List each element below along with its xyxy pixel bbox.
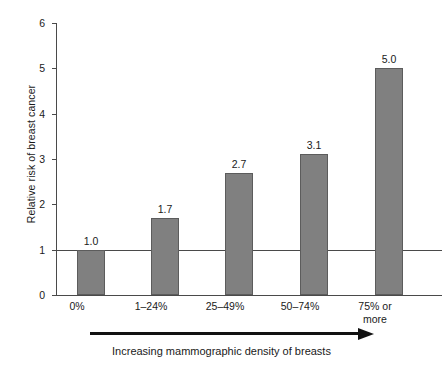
- plot-area: 6 5 4 3 2 1 0 1.0 1.7 2.7 3.1 5: [56, 23, 442, 295]
- y-tick-label-4: 4: [39, 108, 45, 120]
- y-tick-3: 3: [52, 159, 57, 160]
- increasing-density-arrow: [90, 327, 374, 341]
- bar-3: [300, 154, 328, 295]
- x-category-label-4: 75% or more: [340, 300, 410, 325]
- x-category-label-1-line1: 1–24%: [116, 300, 186, 313]
- x-category-label-0: 0%: [42, 300, 112, 313]
- bar-2: [225, 173, 253, 295]
- x-category-label-2: 25–49%: [190, 300, 260, 313]
- y-tick-label-6: 6: [39, 17, 45, 29]
- bar-0: [77, 250, 105, 295]
- chart-figure: Relative risk of breast cancer 6 5 4 3 2…: [0, 0, 443, 365]
- x-axis-line: [56, 295, 442, 296]
- y-tick-2: 2: [52, 204, 57, 205]
- y-tick-label-1: 1: [39, 244, 45, 256]
- x-axis-caption: Increasing mammographic density of breas…: [0, 345, 443, 357]
- x-category-label-4-line2: more: [340, 313, 410, 326]
- y-tick-label-2: 2: [39, 198, 45, 210]
- y-tick-label-5: 5: [39, 62, 45, 74]
- bar-value-3: 3.1: [284, 139, 344, 151]
- x-category-label-2-line1: 25–49%: [190, 300, 260, 313]
- x-category-label-3-line1: 50–74%: [265, 300, 335, 313]
- y-axis-title: Relative risk of breast cancer: [25, 39, 37, 269]
- y-tick-5: 5: [52, 68, 57, 69]
- bar-4: [375, 68, 403, 295]
- bar-value-4: 5.0: [359, 53, 419, 65]
- x-category-label-3: 50–74%: [265, 300, 335, 313]
- y-tick-0: 0: [52, 295, 57, 296]
- y-tick-label-3: 3: [39, 153, 45, 165]
- x-category-label-1: 1–24%: [116, 300, 186, 313]
- y-tick-4: 4: [52, 114, 57, 115]
- y-tick-6: 6: [52, 23, 57, 24]
- bar-value-2: 2.7: [209, 158, 269, 170]
- bar-value-0: 1.0: [61, 235, 121, 247]
- bar-value-1: 1.7: [135, 203, 195, 215]
- arrow-shaft: [90, 332, 362, 335]
- x-category-label-4-line1: 75% or: [340, 300, 410, 313]
- x-category-label-0-line1: 0%: [42, 300, 112, 313]
- bar-1: [151, 218, 179, 295]
- arrow-head-icon: [358, 328, 374, 340]
